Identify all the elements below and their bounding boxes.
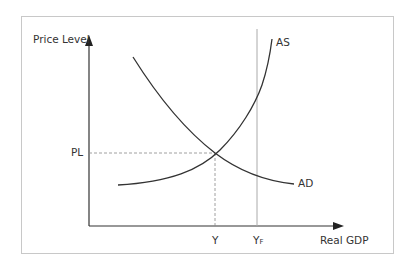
y-axis-label: Price Level [33,33,90,45]
as-curve-label: AS [276,36,290,48]
as-curve [118,39,272,185]
x-axis-arrow-icon [333,222,344,230]
x-axis-label: Real GDP [320,234,369,246]
full-employment-label: YF [253,234,263,246]
full-employment-label-sub: F [259,238,263,246]
ad-curve-label: AD [298,177,313,189]
price-level-label: PL [71,146,83,158]
ad-curve [133,57,294,184]
output-label: Y [212,234,218,246]
